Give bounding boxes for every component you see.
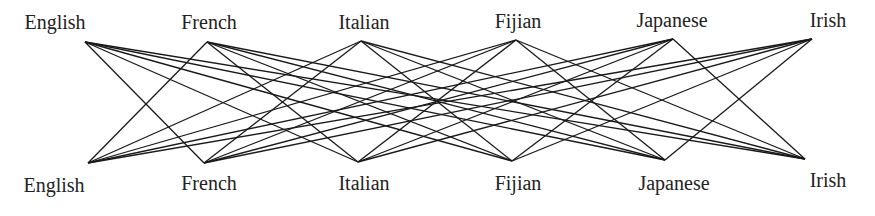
top-label-japanese: Japanese [636,10,707,30]
top-label-italian: Italian [338,12,389,32]
language-bipartite-diagram: English French Italian Fijian Japanese I… [0,0,875,216]
edge-japanese-to-italian [358,39,673,162]
top-label-french: French [181,12,237,32]
edge-italian-to-french [204,41,361,163]
edge-layer [0,0,875,216]
edge-irish-to-english [88,39,812,163]
top-label-irish: Irish [810,10,847,30]
edge-japanese-to-fijian [512,39,673,161]
edge-english-to-french [85,42,204,163]
bottom-label-english: English [23,175,84,195]
edge-english-to-irish [85,42,805,159]
top-label-english: English [24,12,85,32]
edge-french-to-english [88,42,207,163]
edge-fijian-to-japanese [516,40,665,160]
bottom-label-japanese: Japanese [638,173,709,193]
bottom-label-fijian: Fijian [495,173,542,193]
bottom-label-french: French [181,173,237,193]
top-label-fijian: Fijian [495,11,542,31]
bottom-label-italian: Italian [338,173,389,193]
bottom-label-irish: Irish [810,170,847,190]
